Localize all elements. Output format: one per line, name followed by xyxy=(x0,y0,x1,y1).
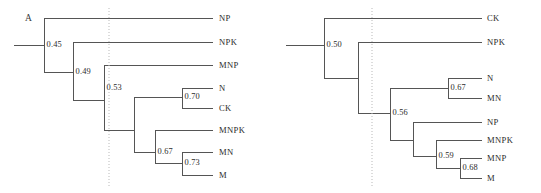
node-label-b-0-50: 0.50 xyxy=(326,41,342,49)
leaf-label-b-NP: NP xyxy=(487,118,499,127)
dendrogram-panel-a: A 0.45 0.49 0.53 0.70 0.67 0.73 NP NPK M… xyxy=(0,0,270,193)
leaf-label-a-NP: NP xyxy=(219,14,231,23)
leaf-label-b-NPK: NPK xyxy=(487,38,505,47)
leaf-label-b-MNP: MNP xyxy=(487,154,507,163)
node-label-a-0-49: 0.49 xyxy=(75,68,91,76)
leaf-label-a-M: M xyxy=(219,171,227,180)
leaf-label-a-CK: CK xyxy=(219,104,232,113)
dendrogram-panel-b: B 0.50 0.67 0.56 0.59 0.68 CK NPK N MN N… xyxy=(270,0,541,193)
node-label-a-0-70: 0.70 xyxy=(184,93,200,101)
panel-a-letter: A xyxy=(25,13,32,23)
dendrogram-a-lines xyxy=(0,0,270,193)
leaf-label-a-MNP: MNP xyxy=(219,61,239,70)
leaf-label-b-MN: MN xyxy=(487,94,502,103)
node-label-a-0-45: 0.45 xyxy=(46,41,62,49)
node-label-b-0-56: 0.56 xyxy=(392,109,408,117)
node-label-a-0-73: 0.73 xyxy=(184,159,200,167)
node-label-b-0-68: 0.68 xyxy=(462,164,478,172)
leaf-label-a-MN: MN xyxy=(219,148,234,157)
dendrogram-figure: A 0.45 0.49 0.53 0.70 0.67 0.73 NP NPK M… xyxy=(0,0,541,193)
leaf-label-b-M: M xyxy=(487,174,495,183)
node-label-b-0-59: 0.59 xyxy=(438,152,454,160)
node-label-b-0-67: 0.67 xyxy=(450,84,466,92)
leaf-label-a-N: N xyxy=(219,84,226,93)
node-label-a-0-53: 0.53 xyxy=(106,84,122,92)
leaf-label-a-MNPK: MNPK xyxy=(219,126,245,135)
leaf-label-b-N: N xyxy=(487,74,494,83)
leaf-label-a-NPK: NPK xyxy=(219,38,237,47)
leaf-label-b-MNPK: MNPK xyxy=(487,136,513,145)
leaf-label-b-CK: CK xyxy=(487,14,500,23)
node-label-a-0-67: 0.67 xyxy=(157,148,173,156)
